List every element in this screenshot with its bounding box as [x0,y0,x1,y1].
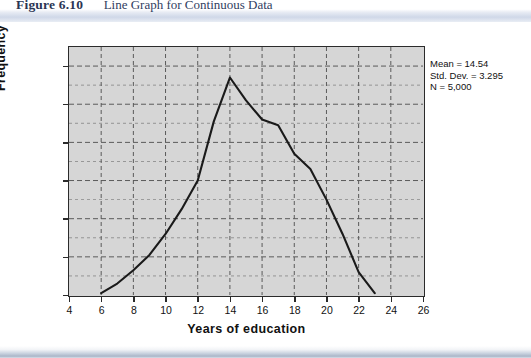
x-tick-mark [423,296,425,302]
annotation-n: N = 5,000 [430,81,503,93]
annotation-mean: Mean = 14.54 [430,58,503,70]
x-tick-mark [294,296,296,302]
x-tick-label: 20 [321,304,333,316]
x-tick-mark [69,296,71,302]
plot-area [68,46,425,297]
figure-title-text: Line Graph for Continuous Data [104,0,273,12]
figure-caption: Figure 6.10 Line Graph for Continuous Da… [16,0,273,13]
x-axis-title: Years of education [68,322,425,336]
x-tick-label: 24 [385,304,397,316]
x-tick-label: 12 [192,304,204,316]
chart-figure: Frequency Years of education Mean = 14.5… [0,26,531,336]
x-tick-mark [230,296,232,302]
statistics-annotation: Mean = 14.54 Std. Dev. = 3.295 N = 5,000 [430,58,503,93]
page-footer-band [0,346,531,358]
x-tick-label: 6 [99,304,105,316]
x-tick-label: 4 [67,304,73,316]
x-tick-label: 8 [131,304,137,316]
x-tick-mark [101,296,103,302]
x-tick-mark [326,296,328,302]
y-tick-mark [63,66,69,68]
x-tick-label: 16 [257,304,269,316]
x-tick-mark [133,296,135,302]
x-tick-label: 26 [418,304,430,316]
x-tick-mark [197,296,199,302]
x-tick-mark [358,296,360,302]
annotation-std-dev: Std. Dev. = 3.295 [430,70,503,82]
y-axis-title: Frequency [0,0,8,118]
page-header-band: Figure 6.10 Line Graph for Continuous Da… [0,0,531,22]
x-tick-label: 22 [353,304,365,316]
x-tick-mark [165,296,167,302]
x-tick-mark [391,296,393,302]
y-tick-mark [63,104,69,106]
x-tick-mark [262,296,264,302]
x-tick-label: 18 [289,304,301,316]
y-tick-mark [63,180,69,182]
x-tick-label: 14 [225,304,237,316]
y-tick-mark [63,218,69,220]
y-tick-mark [63,142,69,144]
plot-svg [69,47,423,295]
y-tick-mark [63,257,69,259]
figure-number-label: Figure 6.10 [16,0,83,12]
x-tick-label: 10 [160,304,172,316]
